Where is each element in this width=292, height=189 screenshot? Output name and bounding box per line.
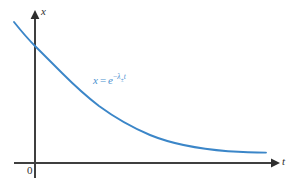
- equation-exponent: −λ±t: [113, 72, 126, 81]
- decay-curve: [14, 22, 266, 153]
- y-axis-arrowhead: [31, 10, 40, 19]
- x-axis-arrowhead: [271, 159, 280, 168]
- equation-equals-sign: =: [100, 74, 106, 86]
- exponential-decay-figure: x t 0 x=e−λ±t: [0, 0, 292, 189]
- curve-equation-label: x=e−λ±t: [93, 73, 126, 86]
- x-axis-label: t: [282, 156, 285, 167]
- figure-canvas: [0, 0, 292, 189]
- equation-variable: x: [93, 74, 98, 86]
- y-axis-label: x: [41, 6, 46, 17]
- origin-label: 0: [27, 165, 33, 176]
- equation-time-variable: t: [124, 72, 126, 81]
